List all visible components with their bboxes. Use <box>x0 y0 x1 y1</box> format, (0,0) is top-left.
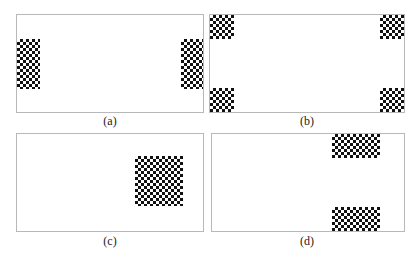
checkerboard-right <box>181 39 203 89</box>
panel-c <box>16 133 204 232</box>
caption-d: (d) <box>247 234 367 249</box>
checkerboard-bottom <box>332 207 380 231</box>
checkerboard-top-left <box>210 15 234 39</box>
panel-d <box>211 133 405 232</box>
panel-a <box>16 14 204 113</box>
checkerboard-bottom-left <box>210 88 234 112</box>
checkerboard-center-right <box>135 156 183 206</box>
checkerboard-top-right <box>380 15 404 39</box>
checkerboard-left <box>17 39 40 89</box>
checkerboard-bottom-right <box>380 88 404 112</box>
panel-b <box>209 14 405 113</box>
caption-b: (b) <box>247 114 367 129</box>
caption-c: (c) <box>50 234 170 249</box>
checkerboard-top <box>332 134 380 158</box>
caption-a: (a) <box>50 114 170 129</box>
